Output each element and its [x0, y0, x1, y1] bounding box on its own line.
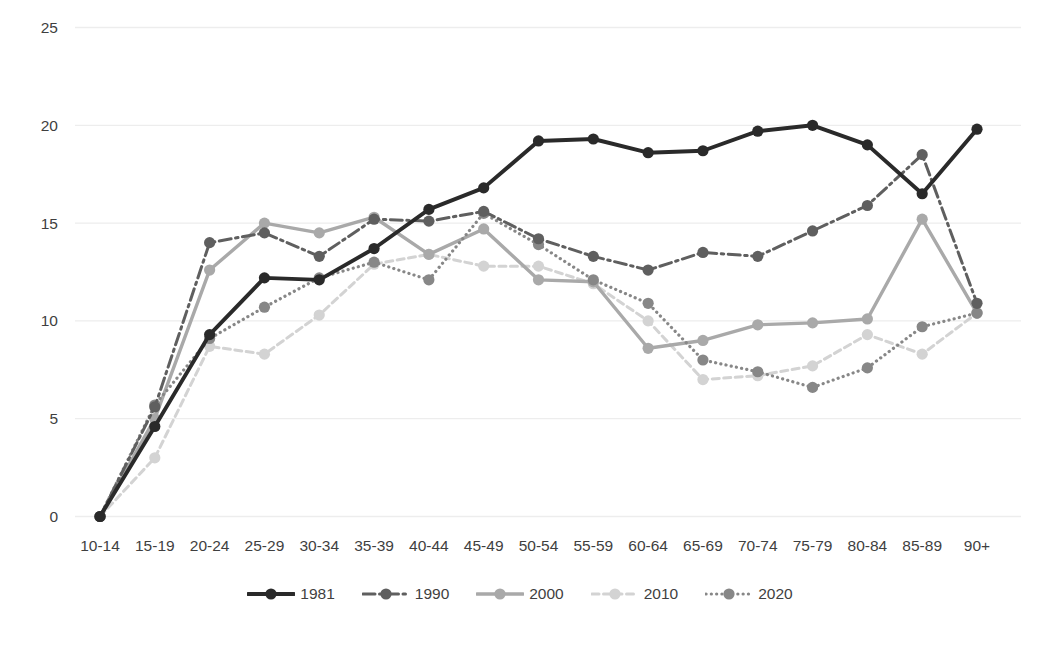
series-line-2020	[100, 213, 977, 516]
data-point-2020-25-29	[259, 302, 270, 313]
x-axis-category-label: 55-59	[573, 537, 613, 554]
data-point-2020-35-39	[368, 257, 379, 268]
y-axis-tick-label: 5	[49, 410, 58, 427]
x-axis-category-label: 65-69	[683, 537, 723, 554]
data-point-1981-80-84	[862, 139, 873, 150]
legend-swatch-1990	[362, 586, 410, 602]
data-point-2010-85-89	[917, 349, 928, 360]
data-point-1990-20-24	[204, 237, 215, 248]
data-point-2000-80-84	[862, 313, 873, 324]
x-axis-category-label: 45-49	[464, 537, 504, 554]
chart-canvas: 051015202510-1415-1920-2425-2930-3435-39…	[0, 0, 1040, 649]
x-axis-category-label: 10-14	[80, 537, 120, 554]
data-point-2010-25-29	[259, 349, 270, 360]
x-axis-category-label: 25-29	[245, 537, 285, 554]
x-axis-category-label: 20-24	[190, 537, 230, 554]
data-point-1990-45-49	[478, 206, 489, 217]
y-axis-tick-label: 25	[41, 19, 58, 36]
data-point-1981-55-59	[588, 133, 599, 144]
data-point-1981-35-39	[368, 243, 379, 254]
legend-label-2020: 2020	[758, 586, 792, 602]
data-point-2020-65-69	[697, 354, 708, 365]
data-point-1990-55-59	[588, 251, 599, 262]
data-point-1981-45-49	[478, 182, 489, 193]
data-point-2020-40-44	[423, 274, 434, 285]
legend-swatch-2000	[476, 586, 524, 602]
y-axis-tick-label: 20	[41, 117, 59, 134]
data-point-2000-50-54	[533, 274, 544, 285]
data-point-2020-55-59	[588, 274, 599, 285]
data-point-1981-40-44	[423, 204, 434, 215]
legend-item-1990: 1990	[362, 586, 449, 602]
data-point-2020-70-74	[752, 366, 763, 377]
data-point-2000-25-29	[259, 218, 270, 229]
data-point-1990-85-89	[917, 149, 928, 160]
x-axis-category-label: 50-54	[519, 537, 559, 554]
series-line-2010	[100, 254, 977, 516]
legend-swatch-2010	[591, 586, 639, 602]
data-point-2000-30-34	[314, 227, 325, 238]
x-axis-category-label: 60-64	[628, 537, 668, 554]
data-point-1981-10-14	[94, 511, 105, 522]
data-point-1990-65-69	[697, 247, 708, 258]
x-axis-category-label: 15-19	[135, 537, 175, 554]
legend-swatch-1981	[247, 586, 295, 602]
legend-item-2010: 2010	[591, 586, 678, 602]
data-point-1981-75-79	[807, 120, 818, 131]
data-point-2010-45-49	[478, 261, 489, 272]
data-point-1990-30-34	[314, 251, 325, 262]
data-point-2020-90+	[971, 307, 982, 318]
data-point-1990-70-74	[752, 251, 763, 262]
data-point-1981-65-69	[697, 145, 708, 156]
data-point-1990-15-19	[149, 401, 160, 412]
legend-label-2010: 2010	[644, 586, 678, 602]
legend-swatch-2020	[705, 586, 753, 602]
data-point-2000-45-49	[478, 223, 489, 234]
data-point-2010-75-79	[807, 360, 818, 371]
data-point-2010-60-64	[643, 315, 654, 326]
data-point-1990-35-39	[368, 214, 379, 225]
data-point-2010-30-34	[314, 309, 325, 320]
y-axis-tick-label: 15	[41, 215, 58, 232]
legend-marker-sample	[724, 588, 735, 599]
x-axis-category-label: 80-84	[848, 537, 888, 554]
data-point-2000-75-79	[807, 317, 818, 328]
data-point-2010-80-84	[862, 329, 873, 340]
data-point-1981-70-74	[752, 126, 763, 137]
data-point-2000-70-74	[752, 319, 763, 330]
legend-label-2000: 2000	[529, 586, 563, 602]
data-point-1990-90+	[971, 298, 982, 309]
data-point-1990-60-64	[643, 264, 654, 275]
data-point-2020-85-89	[917, 321, 928, 332]
x-axis-category-label: 85-89	[902, 537, 942, 554]
data-point-2000-65-69	[697, 335, 708, 346]
data-point-1990-75-79	[807, 225, 818, 236]
x-axis-category-label: 40-44	[409, 537, 449, 554]
data-point-1981-15-19	[149, 421, 160, 432]
y-axis-tick-label: 10	[41, 312, 59, 329]
data-point-2010-50-54	[533, 261, 544, 272]
legend-item-2020: 2020	[705, 586, 792, 602]
data-point-1981-50-54	[533, 135, 544, 146]
y-axis-tick-label: 0	[49, 508, 58, 525]
legend-item-1981: 1981	[247, 586, 334, 602]
data-point-2010-15-19	[149, 452, 160, 463]
x-axis-category-label: 30-34	[299, 537, 339, 554]
data-point-2020-75-79	[807, 382, 818, 393]
x-axis-category-label: 75-79	[793, 537, 833, 554]
legend-marker-sample	[609, 588, 620, 599]
data-point-1981-90+	[971, 124, 982, 135]
data-point-1990-40-44	[423, 216, 434, 227]
x-axis-category-label: 70-74	[738, 537, 778, 554]
legend-marker-sample	[266, 588, 277, 599]
legend-marker-sample	[495, 588, 506, 599]
series-line-1990	[100, 155, 977, 517]
data-point-1981-85-89	[917, 188, 928, 199]
data-point-1981-60-64	[643, 147, 654, 158]
data-point-2000-20-24	[204, 264, 215, 275]
x-axis-category-label: 90+	[964, 537, 990, 554]
legend-marker-sample	[380, 588, 391, 599]
legend-item-2000: 2000	[476, 586, 563, 602]
data-point-1990-80-84	[862, 200, 873, 211]
data-point-2000-60-64	[643, 343, 654, 354]
